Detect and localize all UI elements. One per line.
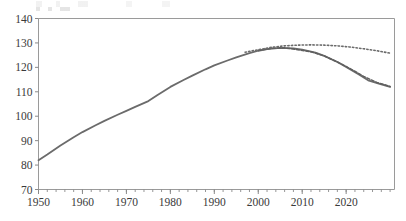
- x-axis-tick-label: 2010: [291, 196, 314, 208]
- y-axis-tick-label: 130: [15, 37, 33, 49]
- x-axis-tick-label: 1970: [115, 196, 138, 208]
- x-axis-tick-label: 2020: [335, 196, 358, 208]
- line-chart-plot: 708090100110120130140 195019601970198019…: [0, 0, 406, 221]
- chart-series-line: [39, 48, 391, 160]
- y-axis-tick-label: 80: [21, 159, 33, 171]
- y-axis-tick-label: 90: [21, 135, 33, 147]
- y-axis-tick-labels: 708090100110120130140: [15, 13, 33, 196]
- chart-container: 708090100110120130140 195019601970198019…: [0, 0, 406, 221]
- y-axis-tick-label: 100: [15, 110, 33, 122]
- x-axis-tick-label: 1960: [71, 196, 94, 208]
- y-axis-tick-label: 110: [16, 86, 33, 98]
- y-axis-tick-label: 120: [15, 61, 33, 73]
- y-axis-ticks: [35, 19, 39, 190]
- x-axis-tick-label: 2000: [247, 196, 270, 208]
- x-axis-tick-labels: 19501960197019801990200020102020: [27, 196, 358, 208]
- x-axis-tick-label: 1950: [27, 196, 50, 208]
- x-axis-tick-label: 1990: [203, 196, 226, 208]
- chart-series-group: [39, 45, 391, 160]
- x-axis-tick-label: 1980: [159, 196, 182, 208]
- y-axis-tick-label: 140: [15, 13, 33, 25]
- plot-frame: [39, 19, 395, 190]
- x-axis-ticks: [39, 190, 391, 195]
- y-axis-tick-label: 70: [21, 184, 33, 196]
